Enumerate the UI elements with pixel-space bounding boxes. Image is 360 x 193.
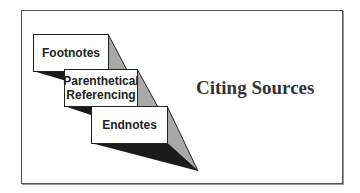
parenthetical-side-shadow <box>137 69 158 107</box>
endnotes-box: Endnotes <box>91 106 168 144</box>
footnotes-side-shadow <box>108 34 128 72</box>
parenthetical-referencing-box: Parenthetical Referencing <box>64 69 138 107</box>
endnotes-label: Endnotes <box>102 118 157 132</box>
parenthetical-label-line1: Parenthetical <box>63 74 138 88</box>
footnotes-label: Footnotes <box>42 46 100 60</box>
footnotes-box: Footnotes <box>33 34 109 72</box>
slide-title: Citing Sources <box>196 77 314 99</box>
parenthetical-label-line2: Referencing <box>66 88 135 102</box>
